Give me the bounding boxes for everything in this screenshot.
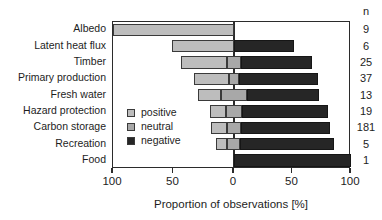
chart-legend: positiveneutralnegative [127, 106, 205, 148]
bar-segment-neutral [226, 105, 243, 118]
legend-item: neutral [127, 120, 205, 133]
category-axis-label: Albedo [0, 23, 106, 34]
category-axis-label: Hazard protection [0, 105, 106, 116]
n-value: 25 [352, 56, 380, 68]
n-value: 9 [352, 23, 380, 35]
bar-segment-positive [216, 138, 227, 151]
bar-row [113, 153, 349, 169]
legend-swatch-positive [127, 109, 135, 117]
bar-segment-negative [241, 122, 330, 135]
bar-row [113, 87, 349, 103]
x-axis-tick [172, 168, 173, 173]
x-axis-tick-label: 100 [330, 175, 370, 187]
x-axis-tick-label: 100 [92, 175, 132, 187]
bar-segment-neutral [227, 56, 241, 69]
bar-segment-positive [210, 105, 226, 118]
chart-figure: AlbedoLatent heat fluxTimberPrimary prod… [0, 0, 382, 220]
category-axis-label: Carbon storage [0, 121, 106, 132]
category-axis-label: Recreation [0, 138, 106, 149]
category-axis-label: Timber [0, 56, 106, 67]
x-axis-tick [349, 168, 350, 173]
x-axis-tick [232, 168, 233, 173]
bar-segment-positive [211, 122, 227, 135]
n-value: 1 [352, 154, 380, 166]
bar-segment-negative [234, 40, 294, 53]
bar-segment-neutral [227, 138, 240, 151]
category-axis-label: Primary production [0, 72, 106, 83]
legend-swatch-negative [127, 137, 135, 145]
x-axis-tick-label: 0 [213, 175, 253, 187]
bar-segment-positive [181, 56, 227, 69]
bar-row [113, 38, 349, 54]
n-value: 13 [352, 89, 380, 101]
x-axis-tick [111, 168, 112, 173]
x-axis-title: Proportion of observations [%] [112, 198, 350, 210]
bar-row [113, 55, 349, 71]
bar-row [113, 71, 349, 87]
legend-label: neutral [141, 121, 173, 132]
n-column-values: 962537131918151 [352, 21, 380, 168]
bar-segment-neutral [221, 89, 247, 102]
bar-segment-negative [241, 56, 312, 69]
bar-segment-negative [242, 105, 327, 118]
n-value: 5 [352, 138, 380, 150]
x-axis-tick-label: 50 [271, 175, 311, 187]
legend-swatch-neutral [127, 123, 135, 131]
legend-item: positive [127, 106, 205, 119]
n-value: 37 [352, 72, 380, 84]
category-axis-label: Latent heat flux [0, 40, 106, 51]
bar-segment-negative [247, 89, 320, 102]
bar-segment-neutral [229, 73, 239, 86]
bar-segment-negative [234, 154, 351, 167]
n-value: 181 [352, 121, 380, 133]
bar-segment-negative [239, 73, 319, 86]
category-axis-label: Food [0, 154, 106, 165]
n-column-header: n [352, 5, 380, 17]
n-value: 6 [352, 40, 380, 52]
legend-label: positive [141, 107, 177, 118]
x-axis-tick-label: 50 [152, 175, 192, 187]
legend-label: negative [141, 135, 181, 146]
category-axis-label: Fresh water [0, 89, 106, 100]
category-axis-labels: AlbedoLatent heat fluxTimberPrimary prod… [0, 21, 108, 168]
x-axis-tick [291, 168, 292, 173]
bar-segment-positive [113, 24, 234, 37]
bar-segment-neutral [227, 122, 241, 135]
bar-row [113, 22, 349, 38]
bar-segment-positive [172, 40, 234, 53]
legend-item: negative [127, 134, 205, 147]
n-value: 19 [352, 105, 380, 117]
bar-segment-positive [198, 89, 221, 102]
bar-segment-negative [240, 138, 334, 151]
bar-segment-positive [194, 73, 229, 86]
